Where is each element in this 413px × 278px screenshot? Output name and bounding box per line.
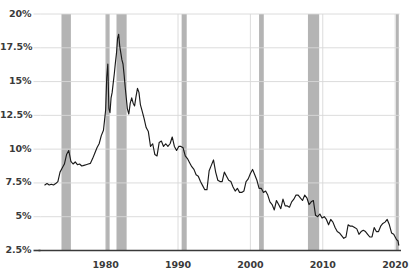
x-tick-label-1980: 1980 [82,259,130,270]
recession-1973-band [61,14,70,251]
y-tick-label-17.5: 17.5% [0,41,32,52]
data-series-group [45,34,399,245]
gridlines-group [41,14,400,251]
y-tick-label-7.5: 7.5% [0,176,32,187]
x-tick-label-2000: 2000 [226,259,274,270]
y-tick-label-10: 10% [0,143,32,154]
x-tick-label-1990: 1990 [154,259,202,270]
y-tick-label-15: 15% [0,75,32,86]
y-tick-label-2.5: 2.5% [0,244,32,255]
recession-1990-band [182,14,187,251]
x-tick-label-2010: 2010 [299,259,347,270]
recession-2020-band [396,14,399,251]
recession-1981-band [117,14,127,251]
axis-lines-group [34,14,402,251]
recession-2001-band [259,14,264,251]
y-tick-label-20: 20% [0,8,32,19]
y-tick-label-5: 5% [0,210,32,221]
y-tick-label-12.5: 12.5% [0,109,32,120]
recession-1980-band [106,14,110,251]
x-tick-label-2020: 2020 [371,259,413,270]
recession-bands-group [61,14,398,251]
series-line-rate [45,34,399,245]
recession-2008-band [308,14,319,251]
